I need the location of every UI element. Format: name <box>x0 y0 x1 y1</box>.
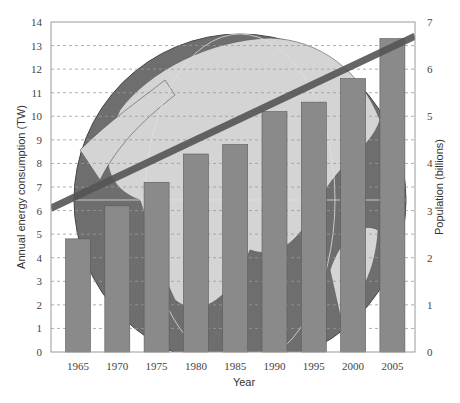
y-tick-label: 1 <box>37 322 43 334</box>
x-tick-label: 2000 <box>342 360 365 372</box>
bar <box>301 102 326 352</box>
x-tick-label: 1970 <box>106 360 129 372</box>
bar <box>380 39 405 353</box>
x-axis-title: Year <box>233 376 256 388</box>
x-tick-label: 1980 <box>185 360 208 372</box>
x-tick-label: 1985 <box>224 360 247 372</box>
y-tick-label: 5 <box>37 228 43 240</box>
bar <box>66 239 91 352</box>
y-tick-label: 0 <box>37 346 43 358</box>
y-tick-label: 6 <box>37 205 43 217</box>
y-tick-label: 8 <box>37 157 43 169</box>
bar <box>341 79 366 352</box>
y2-tick-label: 2 <box>427 252 433 264</box>
x-tick-label: 1995 <box>303 360 326 372</box>
x-tick-label: 1990 <box>264 360 287 372</box>
y-tick-label: 7 <box>37 181 43 193</box>
x-tick-label: 1975 <box>146 360 169 372</box>
left-axis-title: Annual energy consumption (TW) <box>15 105 27 269</box>
right-axis-title: Population (billions) <box>433 139 445 235</box>
x-axis-ticks: 196519701975198019851990199520002005 <box>67 360 404 372</box>
y-tick-label: 11 <box>31 87 42 99</box>
y2-tick-label: 5 <box>427 110 433 122</box>
y-tick-label: 9 <box>37 134 43 146</box>
y2-tick-label: 0 <box>427 346 433 358</box>
left-axis-ticks: 01234567891011121314 <box>31 16 43 358</box>
energy-population-chart: 01234567891011121314 01234567 1965197019… <box>0 0 460 403</box>
bar <box>183 154 208 352</box>
y-tick-label: 14 <box>31 16 43 28</box>
y-tick-label: 2 <box>37 299 43 311</box>
bar <box>262 112 287 352</box>
y-tick-label: 10 <box>31 110 43 122</box>
x-tick-label: 2005 <box>381 360 404 372</box>
bar <box>144 182 169 352</box>
y-tick-label: 3 <box>37 275 43 287</box>
x-tick-label: 1965 <box>67 360 90 372</box>
y2-tick-label: 7 <box>427 16 433 28</box>
y2-tick-label: 1 <box>427 299 433 311</box>
y-tick-label: 12 <box>31 63 42 75</box>
bar <box>223 145 248 352</box>
y-tick-label: 13 <box>31 40 43 52</box>
y2-tick-label: 6 <box>427 63 433 75</box>
bar <box>105 206 130 352</box>
y-tick-label: 4 <box>37 252 43 264</box>
